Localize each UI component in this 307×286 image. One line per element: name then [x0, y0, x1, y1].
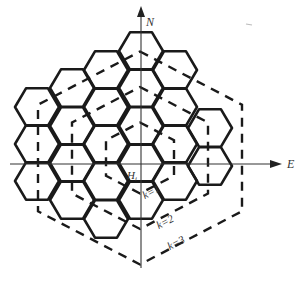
- ring-label-k2: k=2: [154, 212, 176, 231]
- east-arrowhead-icon: [270, 160, 282, 168]
- north-arrowhead-icon: [137, 6, 145, 17]
- east-label: E: [286, 157, 295, 171]
- center-label: Hi: [126, 169, 137, 183]
- ring-label-k3: k=3: [165, 233, 187, 252]
- scan-mark: [246, 24, 252, 25]
- hex-cell: [188, 109, 232, 146]
- hex-cell: [153, 88, 197, 125]
- hex-grid-diagram: N E Hi k=1 k=2 k=3: [0, 0, 307, 286]
- center-label-subscript: i: [135, 175, 137, 183]
- hex-cell: [188, 147, 232, 184]
- ring-label-k1: k=1: [140, 182, 161, 201]
- k-rings: [38, 52, 242, 265]
- k-ring-3: [38, 52, 242, 265]
- north-label: N: [145, 15, 155, 29]
- hexagon-cells: [15, 32, 232, 237]
